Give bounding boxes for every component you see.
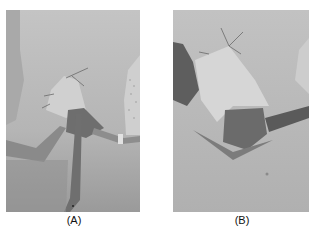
surgical-photo-b bbox=[173, 10, 309, 212]
photo-panel-b bbox=[173, 10, 309, 212]
panel-label-b: (B) bbox=[222, 214, 262, 226]
surgical-photo-a bbox=[6, 10, 140, 212]
photo-panel-a bbox=[6, 10, 140, 212]
panel-label-a: (A) bbox=[54, 214, 94, 226]
